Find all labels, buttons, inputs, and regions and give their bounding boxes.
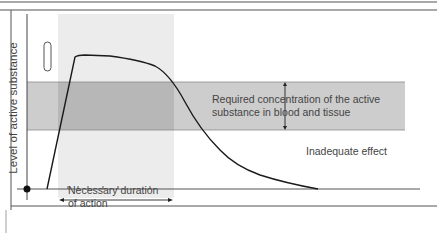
origin-dot: [24, 186, 31, 193]
inadequate-effect-label: Inadequate effect: [306, 145, 387, 158]
arrow-right-icon: [168, 198, 173, 202]
duration-label-line2: of action: [68, 197, 158, 210]
y-axis-label-text: Level of active substance: [7, 42, 19, 174]
duration-label: Necessary duration of action: [68, 184, 158, 210]
arrow-left-icon: [59, 198, 64, 202]
diagram-frame: Level of active substance Required conce…: [0, 0, 437, 233]
overlap-region: [58, 82, 174, 130]
required-concentration-label: Required concentration of the active sub…: [212, 93, 380, 119]
band-label-line1: Required concentration of the active: [212, 93, 380, 106]
capsule-icon: [44, 42, 51, 71]
y-axis-label: Level of active substance: [3, 8, 23, 208]
duration-label-line1: Necessary duration: [68, 184, 158, 197]
band-label-line2: substance in blood and tissue: [212, 106, 380, 119]
